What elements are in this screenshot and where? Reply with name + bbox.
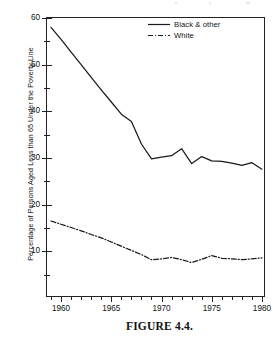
y-tick-inner bbox=[47, 275, 50, 276]
y-tick-inner bbox=[47, 205, 52, 206]
series-line bbox=[51, 27, 262, 169]
x-tick bbox=[202, 296, 203, 300]
figure-4-4: Percentage of Persons Aged Less than 65 … bbox=[0, 0, 273, 339]
y-tick-label: 10 bbox=[31, 247, 40, 255]
x-tick bbox=[252, 296, 253, 300]
y-tick-inner bbox=[47, 88, 50, 89]
legend-line-solid-icon bbox=[148, 21, 170, 28]
x-tick bbox=[121, 296, 122, 300]
y-tick-label: 30 bbox=[31, 154, 40, 162]
x-tick bbox=[131, 296, 132, 300]
figure-caption-text: FIGURE 4.4. bbox=[126, 320, 193, 332]
x-tick bbox=[162, 296, 163, 302]
legend-label-black-and-other: Black & other bbox=[174, 21, 220, 29]
x-tick-label: 1960 bbox=[52, 305, 70, 313]
scan-artifact-strip bbox=[80, 0, 273, 6]
x-tick bbox=[81, 296, 82, 300]
y-tick-label: 50 bbox=[31, 61, 40, 69]
x-tick-label: 1980 bbox=[253, 305, 271, 313]
x-tick-label: 1970 bbox=[152, 305, 170, 313]
y-tick-inner bbox=[47, 111, 52, 112]
x-tick bbox=[91, 296, 92, 300]
legend-line-dashdot-icon bbox=[148, 32, 170, 39]
legend-item-white: White bbox=[148, 31, 220, 40]
y-tick-inner bbox=[47, 41, 50, 42]
x-tick bbox=[222, 296, 223, 300]
y-tick-inner bbox=[47, 135, 50, 136]
plot-area: 102030405060 19601965197019751980 Black … bbox=[46, 17, 265, 297]
x-tick-label: 1975 bbox=[203, 305, 221, 313]
x-tick bbox=[51, 296, 52, 300]
x-tick bbox=[192, 296, 193, 300]
y-tick-inner bbox=[47, 158, 52, 159]
y-tick-inner bbox=[47, 251, 52, 252]
x-tick bbox=[212, 296, 213, 302]
figure-caption: FIGURE 4.4. bbox=[0, 320, 273, 332]
y-tick-inner bbox=[47, 65, 52, 66]
y-tick-label: 40 bbox=[31, 107, 40, 115]
x-tick bbox=[151, 296, 152, 300]
x-tick bbox=[182, 296, 183, 300]
x-tick bbox=[262, 296, 263, 302]
y-tick-label: 60 bbox=[31, 14, 40, 22]
x-tick bbox=[111, 296, 112, 302]
y-tick-label: 20 bbox=[31, 201, 40, 209]
series-line bbox=[51, 221, 262, 263]
x-tick bbox=[172, 296, 173, 300]
x-tick bbox=[71, 296, 72, 300]
x-tick bbox=[242, 296, 243, 300]
y-tick-inner bbox=[47, 18, 52, 19]
x-tick-label: 1965 bbox=[102, 305, 120, 313]
legend-item-black-and-other: Black & other bbox=[148, 20, 220, 29]
chart-lines bbox=[47, 18, 266, 298]
chart-legend: Black & other White bbox=[148, 20, 220, 42]
legend-label-white: White bbox=[174, 32, 194, 40]
x-tick bbox=[141, 296, 142, 300]
x-tick bbox=[232, 296, 233, 300]
y-tick-inner bbox=[47, 181, 50, 182]
x-tick bbox=[61, 296, 62, 302]
x-tick bbox=[101, 296, 102, 300]
y-tick-inner bbox=[47, 228, 50, 229]
